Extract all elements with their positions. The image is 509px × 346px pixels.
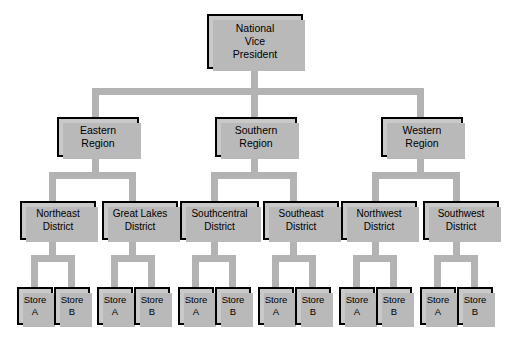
node-store-nw-a[interactable]: Store A: [339, 287, 375, 325]
node-label: Store B: [300, 294, 327, 317]
connector-drop-eastern: [92, 88, 99, 118]
connector-drop-store-se-a: [272, 255, 279, 287]
connector-drop-store-ne-a: [31, 255, 38, 287]
connector-drop-store-sc-a: [192, 255, 199, 287]
node-label: Store A: [183, 294, 210, 317]
connector-drop-southcentral: [211, 172, 218, 202]
connector-southern-bus: [211, 172, 297, 179]
node-store-se-b[interactable]: Store B: [295, 287, 331, 325]
node-label: Store A: [102, 294, 129, 317]
node-store-gl-a[interactable]: Store A: [97, 287, 133, 325]
connector-drop-northeast: [49, 172, 56, 202]
connector-drop-store-sc-b: [229, 255, 236, 287]
connector-drop-store-se-b: [309, 255, 316, 287]
node-label: Store B: [462, 294, 489, 317]
node-label: Southeast District: [276, 208, 325, 232]
node-southeast-district[interactable]: Southeast District: [263, 201, 339, 240]
node-label: Store A: [425, 294, 452, 317]
org-chart-canvas: National Vice President Eastern Region S…: [0, 0, 509, 346]
node-national-vice-president[interactable]: National Vice President: [207, 14, 303, 69]
node-label: Store B: [59, 294, 86, 317]
node-label: Southwest District: [436, 208, 487, 232]
node-store-sc-b[interactable]: Store B: [215, 287, 251, 325]
node-store-gl-b[interactable]: Store B: [134, 287, 170, 325]
node-store-sc-a[interactable]: Store A: [178, 287, 214, 325]
node-eastern-region[interactable]: Eastern Region: [57, 117, 139, 157]
connector-root-bus: [92, 88, 424, 95]
node-label: Store B: [139, 294, 166, 317]
connector-drop-store-sw-a: [434, 255, 441, 287]
node-label: Store B: [381, 294, 408, 317]
connector-drop-store-ne-b: [68, 255, 75, 287]
node-label: Northeast District: [34, 208, 81, 232]
node-store-sw-a[interactable]: Store A: [420, 287, 456, 325]
connector-drop-southeast: [290, 172, 297, 202]
node-label: Southern Region: [233, 124, 280, 150]
node-store-ne-b[interactable]: Store B: [54, 287, 90, 325]
node-store-se-a[interactable]: Store A: [258, 287, 294, 325]
node-label: Southcentral District: [189, 208, 249, 232]
connector-drop-southwest: [453, 172, 460, 202]
node-northeast-district[interactable]: Northeast District: [20, 201, 96, 240]
node-store-ne-a[interactable]: Store A: [17, 287, 53, 325]
node-northwest-district[interactable]: Northwest District: [341, 201, 417, 240]
node-store-sw-b[interactable]: Store B: [457, 287, 493, 325]
node-label: Store A: [263, 294, 290, 317]
connector-drop-western: [417, 88, 424, 118]
connector-drop-store-sw-b: [471, 255, 478, 287]
node-store-nw-b[interactable]: Store B: [376, 287, 412, 325]
node-label: Great Lakes District: [111, 208, 169, 232]
connector-eastern-bus: [49, 172, 136, 179]
connector-drop-store-nw-b: [390, 255, 397, 287]
connector-drop-southern: [251, 88, 258, 118]
node-label: Western Region: [401, 124, 444, 150]
connector-western-bus: [372, 172, 460, 179]
node-label: Eastern Region: [78, 124, 118, 150]
node-label: Store B: [220, 294, 247, 317]
node-southwest-district[interactable]: Southwest District: [423, 201, 499, 240]
node-label: Northwest District: [354, 208, 403, 232]
node-great-lakes-district[interactable]: Great Lakes District: [102, 201, 178, 240]
node-label: National Vice President: [231, 22, 279, 60]
connector-drop-great-lakes: [129, 172, 136, 202]
node-southern-region[interactable]: Southern Region: [215, 117, 297, 157]
connector-drop-store-gl-a: [111, 255, 118, 287]
node-southcentral-district[interactable]: Southcentral District: [180, 201, 259, 240]
connector-drop-store-nw-a: [353, 255, 360, 287]
node-label: Store A: [344, 294, 371, 317]
connector-drop-store-gl-b: [148, 255, 155, 287]
connector-drop-northwest: [372, 172, 379, 202]
node-label: Store A: [22, 294, 49, 317]
node-western-region[interactable]: Western Region: [381, 117, 463, 157]
